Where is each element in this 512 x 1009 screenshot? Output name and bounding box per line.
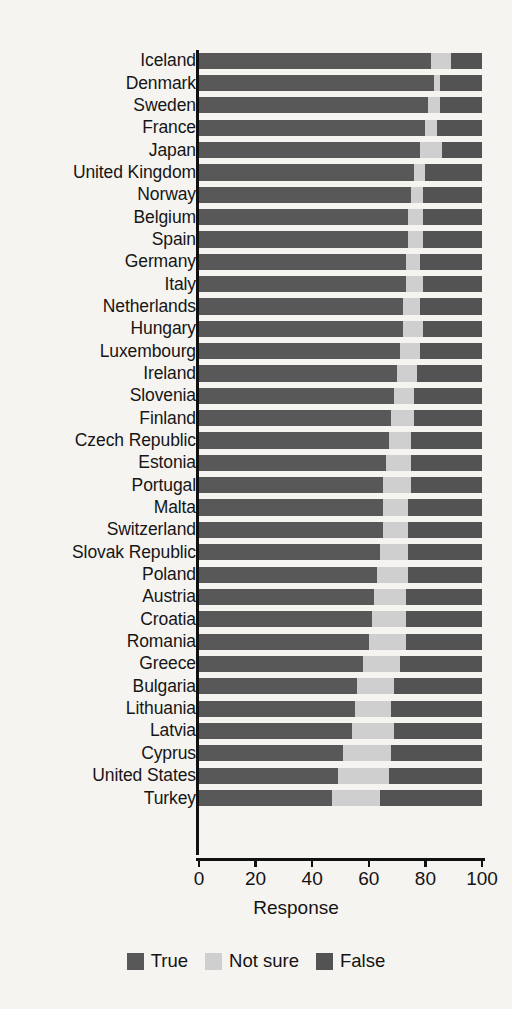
bar-segment-true [199, 276, 406, 292]
bar-segment-true [199, 499, 383, 515]
bar-segment-not-sure [408, 231, 422, 247]
stacked-bar [199, 544, 482, 560]
category-label: Czech Republic [75, 432, 196, 450]
bar-segment-true [199, 745, 343, 761]
bar-rows: IcelandDenmarkSwedenFranceJapanUnited Ki… [0, 50, 512, 810]
bar-segment-not-sure [428, 97, 439, 113]
bar-row: Cyprus [0, 743, 512, 765]
x-tick-label: 60 [358, 869, 379, 888]
bar-segment-true [199, 410, 391, 426]
category-label: Belgium [133, 209, 196, 227]
bar-segment-false [411, 455, 482, 471]
bar-segment-true [199, 432, 389, 448]
bar-segment-not-sure [377, 567, 408, 583]
bar-row: Germany [0, 251, 512, 273]
bar-segment-not-sure [369, 634, 406, 650]
stacked-bar [199, 142, 482, 158]
stacked-bar [199, 723, 482, 739]
bar-segment-false [423, 276, 482, 292]
category-label: Luxembourg [100, 343, 196, 361]
category-label: Sweden [133, 97, 196, 115]
category-label: Spain [152, 231, 196, 249]
bar-segment-false [408, 499, 482, 515]
bar-row: Sweden [0, 95, 512, 117]
stacked-bar [199, 410, 482, 426]
bar-row: Spain [0, 229, 512, 251]
bar-segment-not-sure [411, 187, 422, 203]
stacked-bar [199, 388, 482, 404]
bar-segment-false [420, 298, 482, 314]
stacked-bar [199, 276, 482, 292]
bar-segment-true [199, 321, 403, 337]
caption-ghost [0, 996, 512, 1009]
category-label: Ireland [143, 365, 196, 383]
stacked-bar [199, 678, 482, 694]
bar-row: Switzerland [0, 519, 512, 541]
bar-segment-not-sure [380, 544, 408, 560]
bar-segment-false [414, 388, 482, 404]
category-label: Germany [125, 254, 196, 272]
bar-row: Japan [0, 139, 512, 161]
stacked-bar-chart: IcelandDenmarkSwedenFranceJapanUnited Ki… [0, 0, 512, 1009]
stacked-bar [199, 343, 482, 359]
x-tick-label: 40 [302, 869, 323, 888]
x-tick [481, 858, 483, 867]
bar-segment-true [199, 723, 352, 739]
stacked-bar [199, 567, 482, 583]
category-label: Croatia [140, 611, 196, 629]
bar-segment-true [199, 522, 383, 538]
bar-segment-false [391, 701, 482, 717]
bar-segment-not-sure [383, 477, 411, 493]
bar-segment-not-sure [400, 343, 420, 359]
bar-segment-not-sure [363, 656, 400, 672]
bar-segment-true [199, 164, 414, 180]
x-tick-label: 100 [466, 869, 498, 888]
category-label: Norway [137, 186, 196, 204]
category-label: Estonia [138, 455, 196, 473]
category-label: Iceland [140, 52, 196, 70]
bar-segment-false [411, 477, 482, 493]
stacked-bar [199, 432, 482, 448]
bar-segment-false [420, 343, 482, 359]
bar-segment-not-sure [372, 611, 406, 627]
bar-segment-false [423, 209, 482, 225]
category-label: United States [92, 767, 196, 785]
bar-row: Finland [0, 408, 512, 430]
bar-segment-true [199, 343, 400, 359]
bar-segment-false [406, 589, 482, 605]
legend-item: True [127, 952, 188, 971]
bar-row: Malta [0, 497, 512, 519]
bar-row: Romania [0, 631, 512, 653]
bar-segment-false [391, 745, 482, 761]
stacked-bar [199, 701, 482, 717]
stacked-bar [199, 768, 482, 784]
category-label: Japan [149, 142, 196, 160]
bar-segment-true [199, 231, 408, 247]
stacked-bar [199, 254, 482, 270]
bar-segment-not-sure [414, 164, 425, 180]
bar-segment-true [199, 768, 338, 784]
bar-segment-true [199, 75, 434, 91]
bar-segment-true [199, 254, 406, 270]
category-label: France [142, 119, 196, 137]
bar-row: Portugal [0, 475, 512, 497]
bar-segment-not-sure [403, 298, 420, 314]
bar-segment-true [199, 53, 431, 69]
x-tick [424, 858, 426, 867]
bar-segment-false [425, 164, 482, 180]
stacked-bar [199, 97, 482, 113]
stacked-bar [199, 656, 482, 672]
stacked-bar [199, 187, 482, 203]
bar-segment-false [442, 142, 482, 158]
bar-segment-not-sure [420, 142, 443, 158]
bar-row: Italy [0, 273, 512, 295]
bar-segment-not-sure [403, 321, 423, 337]
legend-label: True [151, 952, 188, 971]
x-tick [198, 858, 200, 867]
bar-segment-true [199, 120, 425, 136]
bar-segment-false [440, 75, 482, 91]
bar-row: Austria [0, 586, 512, 608]
x-tick [368, 858, 370, 867]
bar-segment-true [199, 455, 386, 471]
category-label: Netherlands [103, 298, 196, 316]
